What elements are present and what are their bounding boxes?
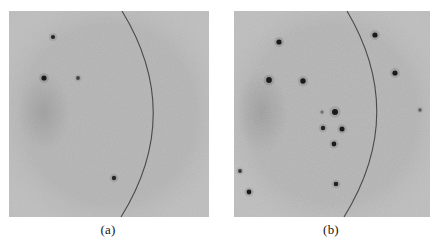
diffraction-spot (321, 111, 324, 114)
panel-b-caption: (b) (311, 222, 351, 238)
panel-b (234, 11, 430, 217)
diffraction-spot (332, 109, 338, 115)
diffraction-spot (247, 190, 252, 195)
diffraction-spot (340, 127, 345, 132)
figure-container: (a) (0, 0, 440, 246)
diffraction-spot (51, 35, 55, 39)
diffraction-spot (300, 78, 305, 83)
panel-a-vignette (9, 11, 209, 217)
panel-a-image (9, 11, 209, 217)
diffraction-spot (332, 142, 337, 147)
diffraction-spot (321, 126, 325, 130)
diffraction-spot (276, 39, 281, 44)
diffraction-spot (372, 32, 377, 37)
panel-b-image (234, 11, 430, 217)
diffraction-spot (238, 169, 242, 173)
diffraction-spot (266, 77, 272, 83)
panel-a-caption: (a) (88, 222, 128, 238)
diffraction-spot (41, 75, 46, 80)
diffraction-spot (418, 108, 421, 111)
diffraction-spot (76, 76, 80, 80)
diffraction-spot (112, 176, 116, 180)
diffraction-spot (392, 70, 397, 75)
diffraction-spot (334, 182, 339, 187)
panel-a (9, 11, 209, 217)
